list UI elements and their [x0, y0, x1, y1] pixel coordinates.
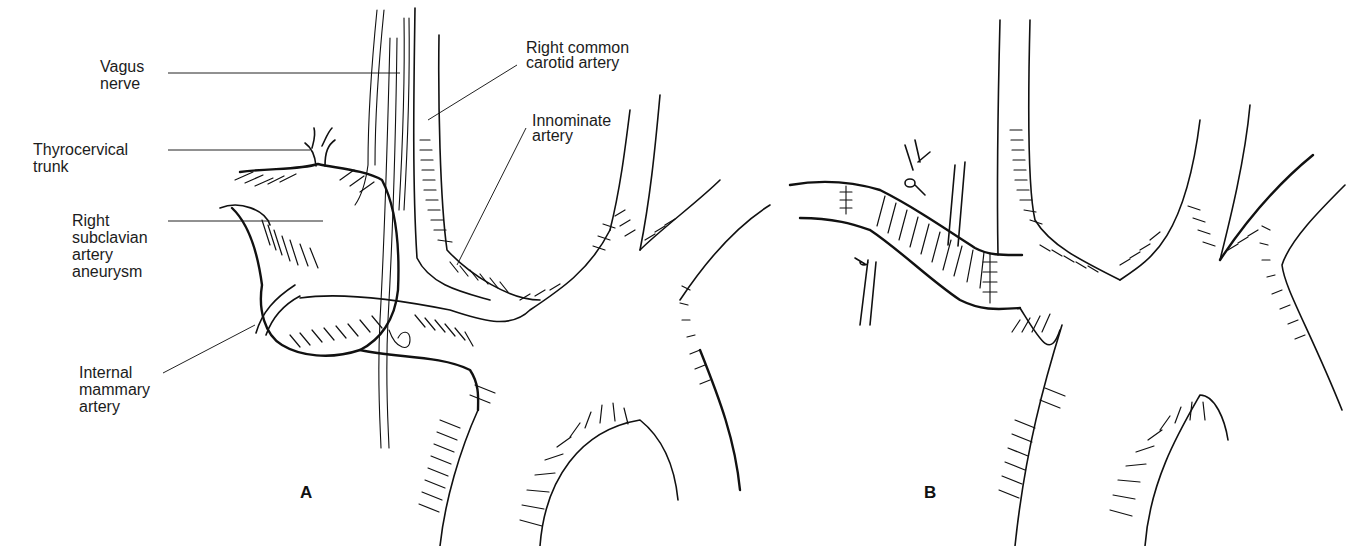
leader-mammary: [163, 325, 255, 373]
panel-b-drawing: [790, 20, 1345, 546]
label-right-subclavian-aneurysm: Right subclavian artery aneurysm: [72, 212, 148, 280]
panel-b-hatching: [999, 130, 1305, 516]
surgical-figure: Vagus nerve Thyrocervical trunk Right su…: [0, 0, 1372, 546]
panel-letter-a: A: [300, 483, 312, 503]
label-right-common-carotid-artery: Right common carotid artery: [526, 40, 629, 70]
label-vagus-nerve: Vagus nerve: [100, 58, 144, 92]
panel-a-hatching: [235, 140, 710, 526]
leader-carotid: [428, 65, 517, 120]
panel-letter-b: B: [924, 483, 936, 503]
label-thyrocervical-trunk: Thyrocervical trunk: [33, 141, 128, 175]
label-internal-mammary-artery: Internal mammary artery: [79, 364, 150, 415]
figure-drawing: [0, 0, 1372, 546]
panel-a-drawing: [163, 8, 770, 546]
leader-innominate: [457, 128, 526, 265]
label-innominate-artery: Innominate artery: [532, 113, 611, 143]
